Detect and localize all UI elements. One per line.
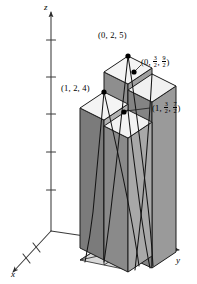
y-axis-label: y [176,255,180,265]
plbl-pre: (0, [141,57,153,67]
plbl-post: ) [166,57,169,67]
point-label-1-2-4: (1, 2, 4) [61,83,90,93]
column-front-right [104,110,152,272]
point-label-0-32-92: (0, 32, 92) [141,55,169,69]
figure-3d-riemann-boxes: (0, 2, 5) (1, 2, 4) (0, 32, 92) (1, 32, … [0,0,197,284]
plbl-pre: (1, [152,103,164,113]
x-axis-label: x [11,269,15,279]
dot-1-2-4 [101,89,106,94]
dot-1-32-72 [121,109,126,114]
col-d-face-left [104,126,128,272]
figure-canvas [0,0,197,284]
point-label-1-32-72: (1, 32, 72) [152,101,180,115]
point-label-0-2-5: (0, 2, 5) [98,30,127,40]
dot-0-32-92 [131,69,136,74]
dot-0-2-5 [125,53,130,58]
x-axis-line [13,231,51,272]
plbl-post: ) [177,103,180,113]
z-axis-label: z [44,2,48,12]
